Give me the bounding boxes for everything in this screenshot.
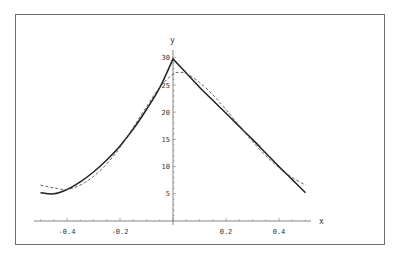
x-axis-label: x [319,217,324,226]
y-tick-label: 30 [162,54,170,62]
x-tick-label: 0.4 [273,228,286,236]
axes [34,50,311,225]
plot-area: -0.4-0.20.20.451015202530 x y [0,0,402,259]
y-tick-label: 20 [162,109,170,117]
y-tick-label: 5 [166,190,170,198]
y-axis-label: y [170,36,175,45]
y-tick-label: 15 [162,136,170,144]
y-tick-label: 10 [162,163,170,171]
tick-labels: -0.4-0.20.20.451015202530 [59,54,286,236]
x-tick-label: -0.2 [112,228,129,236]
x-tick-label: 0.2 [220,228,233,236]
x-tick-label: -0.4 [59,228,76,236]
